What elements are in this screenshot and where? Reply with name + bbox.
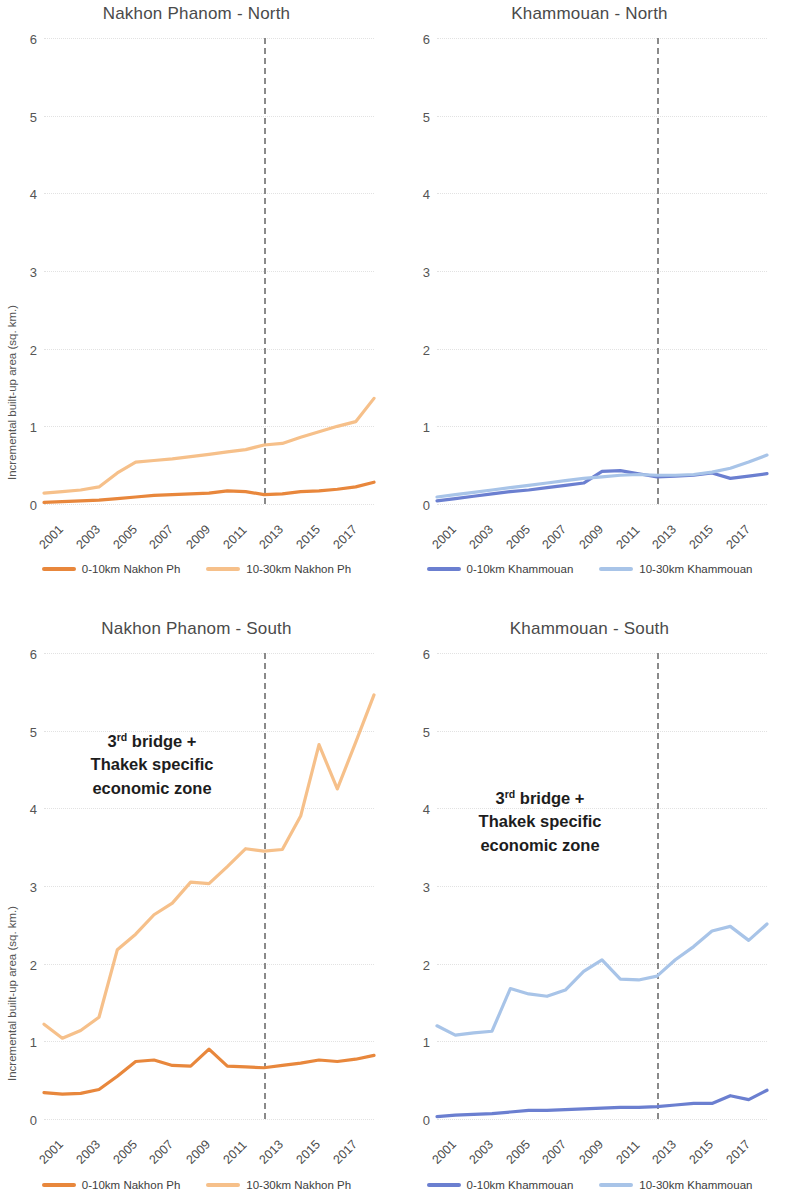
x-axis-tick-label: 2009 (577, 1137, 607, 1167)
x-axis-tick-label: 2013 (257, 1137, 287, 1167)
x-axis-tick-label: 2017 (330, 522, 360, 552)
x-axis-tick-label: 2013 (650, 522, 680, 552)
y-axis-tick-label: 0 (423, 1113, 430, 1128)
legend-label: 0-10km Nakhon Ph (82, 1179, 180, 1191)
x-axis-tick-label: 2001 (430, 522, 460, 552)
y-axis-tick-label: 2 (30, 957, 37, 972)
legend-item[interactable]: 0-10km Nakhon Ph (42, 1179, 180, 1191)
x-axis-tick-label: 2017 (723, 522, 753, 552)
x-axis-tick-label: 2015 (687, 522, 717, 552)
legend-item[interactable]: 10-30km Khammouan (599, 1179, 752, 1191)
y-axis-tick-label: 0 (30, 498, 37, 513)
series-line (44, 482, 374, 502)
series-line (437, 924, 767, 1035)
annotation-line-1: 3rd bridge + (440, 787, 640, 810)
y-axis-tick-label: 3 (423, 880, 430, 895)
legend-label: 10-30km Khammouan (639, 1179, 752, 1191)
gridline: 0 (44, 504, 374, 505)
y-axis-label: Incremental built-up area (sq. km.) (6, 464, 18, 480)
legend-item[interactable]: 10-30km Nakhon Ph (206, 1179, 351, 1191)
x-axis-tick-label: 2017 (723, 1137, 753, 1167)
x-axis-tick-label: 2017 (330, 1137, 360, 1167)
series-layer (44, 38, 374, 504)
legend-color-swatch (427, 567, 461, 571)
y-axis-tick-label: 6 (30, 647, 37, 662)
legend-label: 0-10km Khammouan (467, 563, 574, 575)
annotation-line-3: economic zone (52, 777, 252, 800)
chart-title: Khammouan - South (393, 619, 786, 639)
annotation-third-bridge-nakhon: 3rd bridge + Thakek specific economic zo… (52, 730, 252, 800)
y-axis-tick-label: 5 (30, 724, 37, 739)
series-layer (437, 653, 767, 1119)
x-axis-tick-label: 2009 (184, 522, 214, 552)
x-axis-tick-label: 2005 (503, 522, 533, 552)
y-axis-tick-label: 3 (423, 265, 430, 280)
y-axis-tick-label: 5 (423, 109, 430, 124)
plot-area: 0123456 (44, 38, 374, 504)
chart-legend: 0-10km Khammouan10-30km Khammouan (393, 563, 786, 575)
y-axis-label: Incremental built-up area (sq. km.) (6, 1065, 18, 1081)
x-axis-tick-label: 2009 (184, 1137, 214, 1167)
x-axis-tick-label: 2007 (147, 1137, 177, 1167)
legend-label: 0-10km Khammouan (467, 1179, 574, 1191)
legend-item[interactable]: 0-10km Khammouan (427, 1179, 574, 1191)
y-axis-tick-label: 5 (423, 724, 430, 739)
x-axis-ticks: 200120032005200720092011201320152017 (44, 1123, 374, 1173)
annotation-line-2: Thakek specific (52, 753, 252, 776)
y-axis-tick-label: 6 (423, 32, 430, 47)
legend-item[interactable]: 0-10km Khammouan (427, 563, 574, 575)
x-axis-tick-label: 2007 (540, 1137, 570, 1167)
series-line (44, 398, 374, 493)
chart-panel-khammouan-north: Khammouan - North 0123456 20012003200520… (393, 0, 786, 600)
plot-area: 0123456 (437, 38, 767, 504)
legend-color-swatch (42, 1183, 76, 1187)
x-axis-ticks: 200120032005200720092011201320152017 (437, 508, 767, 558)
y-axis-tick-label: 4 (423, 802, 430, 817)
annotation-line-2: Thakek specific (440, 810, 640, 833)
legend-item[interactable]: 10-30km Nakhon Ph (206, 563, 351, 575)
x-axis-tick-label: 2003 (74, 522, 104, 552)
x-axis-tick-label: 2007 (540, 522, 570, 552)
y-axis-tick-label: 5 (30, 109, 37, 124)
series-line (44, 1049, 374, 1094)
series-layer (44, 653, 374, 1119)
legend-color-swatch (206, 1183, 240, 1187)
x-axis-ticks: 200120032005200720092011201320152017 (437, 1123, 767, 1173)
x-axis-ticks: 200120032005200720092011201320152017 (44, 508, 374, 558)
legend-label: 10-30km Nakhon Ph (246, 563, 351, 575)
y-axis-tick-label: 6 (30, 32, 37, 47)
plot-area: 0123456 (437, 653, 767, 1119)
annotation-line-1: 3rd bridge + (52, 730, 252, 753)
annotation-line-3: economic zone (440, 834, 640, 857)
plot-area: 0123456 (44, 653, 374, 1119)
x-axis-tick-label: 2005 (110, 522, 140, 552)
x-axis-tick-label: 2015 (687, 1137, 717, 1167)
y-axis-tick-label: 1 (30, 420, 37, 435)
series-line (437, 1090, 767, 1116)
series-line (437, 471, 767, 501)
legend-label: 0-10km Nakhon Ph (82, 563, 180, 575)
legend-item[interactable]: 0-10km Nakhon Ph (42, 563, 180, 575)
x-axis-tick-label: 2003 (467, 1137, 497, 1167)
x-axis-tick-label: 2013 (650, 1137, 680, 1167)
y-axis-tick-label: 4 (30, 187, 37, 202)
annotation-third-bridge-khammouan: 3rd bridge + Thakek specific economic zo… (440, 787, 640, 857)
chart-legend: 0-10km Nakhon Ph10-30km Nakhon Ph (0, 563, 393, 575)
x-axis-tick-label: 2011 (220, 523, 249, 552)
legend-color-swatch (427, 1183, 461, 1187)
legend-label: 10-30km Khammouan (639, 563, 752, 575)
y-axis-tick-label: 4 (30, 802, 37, 817)
chart-legend: 0-10km Nakhon Ph10-30km Nakhon Ph (0, 1179, 393, 1191)
x-axis-tick-label: 2011 (613, 523, 642, 552)
x-axis-tick-label: 2007 (147, 522, 177, 552)
legend-color-swatch (206, 567, 240, 571)
chart-title: Nakhon Phanom - North (0, 4, 393, 24)
x-axis-tick-label: 2003 (467, 522, 497, 552)
x-axis-tick-label: 2001 (37, 522, 67, 552)
y-axis-tick-label: 4 (423, 187, 430, 202)
legend-item[interactable]: 10-30km Khammouan (599, 563, 752, 575)
x-axis-tick-label: 2015 (294, 522, 324, 552)
y-axis-tick-label: 0 (30, 1113, 37, 1128)
y-axis-tick-label: 2 (423, 957, 430, 972)
series-layer (437, 38, 767, 504)
